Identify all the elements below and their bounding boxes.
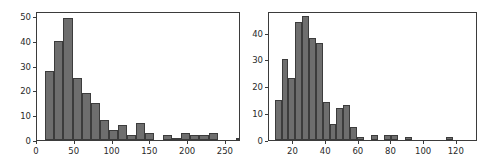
histogram-bar — [199, 135, 208, 140]
histogram-bar — [343, 105, 350, 140]
y-tick-mark — [265, 60, 268, 61]
x-tick-mark — [74, 141, 75, 144]
y-tick-label: 10 — [10, 111, 31, 121]
histogram-bar — [118, 125, 127, 140]
x-tick-label: 120 — [448, 146, 464, 156]
histogram-bar — [405, 137, 412, 140]
histogram-bar — [316, 43, 323, 140]
y-tick-mark — [265, 34, 268, 35]
x-tick-mark — [423, 141, 424, 144]
x-tick-mark — [149, 141, 150, 144]
histogram-bar — [309, 38, 316, 140]
x-tick-mark — [187, 141, 188, 144]
histogram-bar — [209, 133, 218, 140]
histogram-bar — [275, 100, 282, 140]
x-tick-label: 100 — [415, 146, 431, 156]
left-plot-axes — [36, 12, 240, 141]
y-tick-label: 20 — [242, 82, 263, 92]
y-tick-label: 10 — [242, 109, 263, 119]
x-tick-label: 150 — [141, 146, 157, 156]
y-tick-label: 40 — [242, 29, 263, 39]
histogram-bar — [384, 135, 391, 140]
histogram-bar — [357, 137, 364, 140]
x-tick-label: 250 — [217, 146, 233, 156]
histogram-bar — [295, 22, 302, 140]
histogram-bar — [371, 135, 378, 140]
histogram-bar — [302, 16, 309, 140]
y-tick-mark — [33, 116, 36, 117]
y-tick-label: 40 — [10, 37, 31, 47]
y-tick-mark — [265, 114, 268, 115]
histogram-bar — [330, 124, 337, 140]
histogram-bar — [236, 138, 239, 140]
histogram-bar — [446, 137, 453, 140]
x-tick-label: 200 — [179, 146, 195, 156]
histogram-bar — [100, 120, 109, 140]
right-bars-container — [269, 13, 476, 140]
right-histogram-panel: 20406080100120 010203040 — [248, 0, 496, 167]
histogram-bar — [172, 138, 181, 140]
x-tick-label: 50 — [68, 146, 79, 156]
histogram-bar — [73, 78, 82, 140]
histogram-bar — [181, 133, 190, 140]
y-tick-mark — [265, 87, 268, 88]
histogram-figure: 050100150200250 01020304050 204060801001… — [0, 0, 496, 167]
y-tick-label: 20 — [10, 86, 31, 96]
histogram-bar — [323, 102, 330, 140]
x-tick-label: 20 — [287, 146, 298, 156]
histogram-bar — [145, 133, 154, 140]
x-tick-mark — [36, 141, 37, 144]
x-tick-mark — [325, 141, 326, 144]
y-tick-label: 30 — [242, 55, 263, 65]
y-tick-label: 50 — [10, 12, 31, 22]
x-tick-label: 60 — [352, 146, 363, 156]
x-tick-label: 0 — [33, 146, 38, 156]
y-tick-mark — [33, 141, 36, 142]
histogram-bar — [190, 135, 199, 140]
histogram-bar — [136, 123, 145, 140]
left-histogram-panel: 050100150200250 01020304050 — [0, 0, 248, 167]
x-tick-mark — [358, 141, 359, 144]
x-tick-label: 100 — [103, 146, 119, 156]
histogram-bar — [54, 41, 63, 140]
y-tick-mark — [33, 17, 36, 18]
x-tick-mark — [225, 141, 226, 144]
histogram-bar — [63, 18, 72, 140]
histogram-bar — [127, 135, 136, 140]
histogram-bar — [91, 103, 100, 140]
x-tick-mark — [112, 141, 113, 144]
histogram-bar — [109, 130, 118, 140]
x-tick-mark — [390, 141, 391, 144]
y-tick-label: 0 — [242, 136, 263, 146]
x-tick-mark — [456, 141, 457, 144]
histogram-bar — [45, 71, 54, 140]
y-tick-mark — [33, 42, 36, 43]
x-tick-mark — [292, 141, 293, 144]
y-tick-label: 0 — [10, 136, 31, 146]
histogram-bar — [391, 135, 398, 140]
histogram-bar — [82, 93, 91, 140]
histogram-bar — [288, 78, 295, 140]
histogram-bar — [282, 59, 289, 140]
y-tick-mark — [33, 67, 36, 68]
histogram-bar — [350, 127, 357, 140]
histogram-bar — [336, 108, 343, 140]
left-bars-container — [37, 13, 239, 140]
right-plot-axes — [268, 12, 477, 141]
x-tick-label: 40 — [320, 146, 331, 156]
y-tick-label: 30 — [10, 62, 31, 72]
y-tick-mark — [33, 91, 36, 92]
y-tick-mark — [265, 141, 268, 142]
x-tick-label: 80 — [385, 146, 396, 156]
histogram-bar — [163, 135, 172, 140]
